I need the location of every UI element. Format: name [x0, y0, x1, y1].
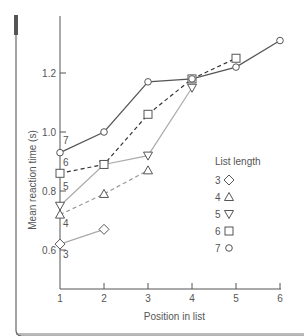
- triangle-up-marker-icon: [100, 189, 109, 197]
- series-line-7: [60, 41, 280, 153]
- y-axis-label: Mean reaction time (s): [27, 130, 38, 229]
- y-tick-label: 1.0: [42, 127, 56, 138]
- series-line-5: [60, 88, 192, 206]
- series-line-3: [60, 229, 104, 244]
- square-marker-icon: [232, 54, 240, 62]
- circle-marker-icon: [101, 129, 108, 136]
- legend-triangle-down-icon: [225, 211, 234, 219]
- circle-marker-icon: [277, 37, 284, 44]
- legend-label-3: 3: [215, 175, 221, 186]
- series-annotation-4: 4: [63, 218, 69, 229]
- legend-diamond-icon: [224, 175, 234, 185]
- square-marker-icon: [144, 110, 152, 118]
- y-tick-label: 0.6: [42, 245, 56, 256]
- x-tick-label: 5: [233, 293, 239, 304]
- square-marker-icon: [100, 160, 108, 168]
- circle-marker-icon: [57, 149, 64, 156]
- diamond-marker-icon: [99, 224, 109, 234]
- triangle-down-marker-icon: [56, 202, 65, 210]
- series-annotation-5: 5: [63, 181, 69, 192]
- y-tick-label: 1.2: [42, 68, 56, 79]
- legend-label-5: 5: [215, 209, 221, 220]
- circle-marker-icon: [189, 76, 196, 83]
- chart: 0.60.81.01.2123456Position in listMean r…: [0, 0, 304, 336]
- circle-marker-icon: [233, 64, 240, 71]
- series-annotation-6: 6: [63, 157, 69, 168]
- x-tick-label: 4: [189, 293, 195, 304]
- legend-label-7: 7: [215, 243, 221, 254]
- legend-triangle-up-icon: [225, 193, 234, 201]
- triangle-up-marker-icon: [56, 210, 65, 218]
- legend-title: List length: [215, 156, 261, 167]
- series-annotation-7: 7: [63, 135, 69, 146]
- circle-marker-icon: [145, 79, 152, 86]
- diamond-marker-icon: [55, 239, 65, 249]
- x-tick-label: 2: [101, 293, 107, 304]
- x-tick-label: 3: [145, 293, 151, 304]
- y-tick-label: 0.8: [42, 186, 56, 197]
- legend-label-4: 4: [215, 192, 221, 203]
- x-tick-label: 1: [57, 293, 63, 304]
- legend-square-icon: [225, 227, 233, 235]
- legend-label-6: 6: [215, 226, 221, 237]
- triangle-down-marker-icon: [188, 84, 197, 92]
- square-marker-icon: [56, 169, 64, 177]
- frame-accent-bar: [14, 15, 18, 35]
- x-tick-label: 6: [277, 293, 283, 304]
- triangle-up-marker-icon: [144, 166, 153, 174]
- x-axis-label: Position in list: [144, 311, 205, 322]
- frame-border: [16, 35, 304, 336]
- legend-circle-icon: [226, 245, 233, 252]
- series-annotation-3: 3: [63, 249, 69, 260]
